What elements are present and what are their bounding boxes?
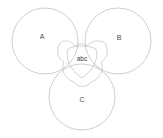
intersection-label-abc: abc [77, 55, 88, 62]
set-label-b: B [117, 34, 122, 41]
set-label-a: A [40, 33, 45, 40]
set-label-c: C [79, 96, 84, 103]
venn-diagram-figure: A B C abc [0, 0, 163, 138]
venn-diagram-canvas: A B C abc [0, 0, 163, 138]
